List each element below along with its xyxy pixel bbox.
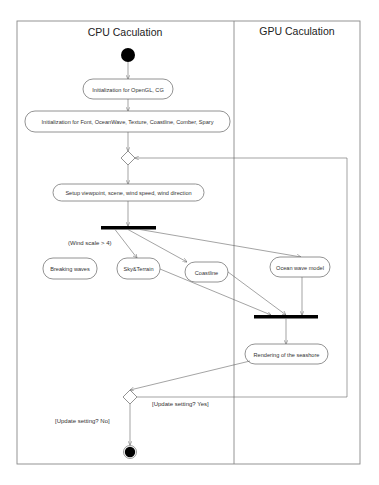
activity-label: Coastline bbox=[195, 270, 218, 276]
edge-rendering-to-decision bbox=[130, 361, 250, 390]
lane-title-gpu: GPU Caculation bbox=[259, 25, 334, 37]
edge-fork-to-ocean bbox=[140, 230, 301, 258]
activity-setup: Setup viewpoint, scene, wind speed, wind… bbox=[53, 184, 204, 201]
join-bar bbox=[254, 315, 318, 319]
activity-diagram: CPU Caculation GPU Caculation Initializa… bbox=[0, 0, 379, 485]
activity-label: Rendering of the seashore bbox=[254, 352, 320, 358]
activity-label: Ocean wave model bbox=[276, 265, 324, 271]
activity-label: Setup viewpoint, scene, wind speed, wind… bbox=[65, 190, 191, 196]
guard-wind-scale: (Wind scale > 4) bbox=[68, 240, 112, 246]
activity-label: Sky&Terrain bbox=[123, 266, 153, 272]
activity-label: Breaking waves bbox=[50, 266, 90, 272]
start-node bbox=[121, 48, 135, 62]
edge-coastline-to-join bbox=[228, 272, 286, 315]
activity-sky-terrain: Sky&Terrain bbox=[117, 258, 160, 279]
guard-update-yes: [Update setting? Yes] bbox=[152, 401, 209, 407]
activity-coastline: Coastline bbox=[185, 262, 228, 282]
activity-rendering: Rendering of the seashore bbox=[245, 344, 328, 364]
lane-title-cpu: CPU Caculation bbox=[88, 26, 163, 38]
guard-update-no: [Update setting? No] bbox=[55, 418, 110, 424]
activity-label: Initialization for OpenGL, CG bbox=[92, 87, 164, 93]
edge-fork-to-coastline bbox=[128, 230, 187, 263]
activity-init-font: Initialization for Font, OceanWave, Text… bbox=[25, 111, 230, 132]
activity-label: Initialization for Font, OceanWave, Text… bbox=[42, 119, 214, 125]
decision-diamond bbox=[123, 390, 137, 404]
end-node bbox=[124, 446, 137, 459]
activity-ocean-wave-model: Ocean wave model bbox=[270, 257, 330, 277]
activity-breaking-waves: Breaking waves bbox=[43, 258, 97, 279]
fork-bar bbox=[101, 226, 156, 230]
edge-fork-to-sky bbox=[115, 230, 137, 259]
merge-diamond bbox=[121, 151, 135, 165]
activity-init-opengl: Initialization for OpenGL, CG bbox=[83, 79, 173, 99]
